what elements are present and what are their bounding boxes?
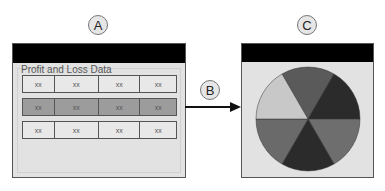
table-cell: xx (99, 76, 140, 92)
table-cell: xx (23, 76, 55, 92)
table-cell: xx (55, 76, 99, 92)
callout-c-label: C (302, 18, 311, 33)
table-cell: xx (140, 99, 176, 115)
table-cell: xx (23, 122, 55, 138)
callout-a-label: A (94, 18, 103, 33)
table-row[interactable]: xx xx xx xx (22, 121, 177, 139)
arrow-right-icon (185, 101, 243, 113)
callout-c: C (297, 15, 317, 35)
table-cell: xx (55, 122, 99, 138)
table-row-highlighted[interactable]: xx xx xx xx (22, 98, 177, 116)
pie-chart (255, 66, 361, 172)
table-cell: xx (99, 122, 140, 138)
chart-window-titlebar (242, 44, 373, 62)
source-window: Profit and Loss Data xx xx xx xx xx xx x… (12, 43, 186, 178)
callout-a: A (88, 15, 108, 35)
callout-b-label: B (206, 83, 215, 98)
table-cell: xx (23, 99, 55, 115)
source-window-titlebar (13, 44, 185, 63)
table-cell: xx (99, 99, 140, 115)
table-cell: xx (140, 122, 176, 138)
table-cell: xx (55, 99, 99, 115)
chart-window (241, 43, 374, 178)
table-cell: xx (140, 76, 176, 92)
table-row[interactable]: xx xx xx xx (22, 75, 177, 93)
data-panel-label: Profit and Loss Data (21, 64, 112, 75)
callout-b: B (200, 80, 220, 100)
